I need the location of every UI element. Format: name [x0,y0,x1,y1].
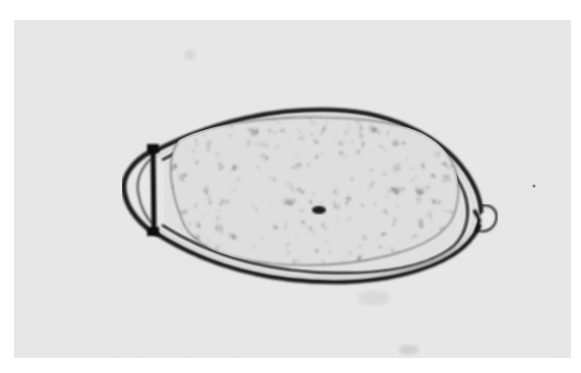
micrograph-photo [14,20,571,358]
egg-micrograph [14,20,571,358]
image-frame [0,0,581,373]
